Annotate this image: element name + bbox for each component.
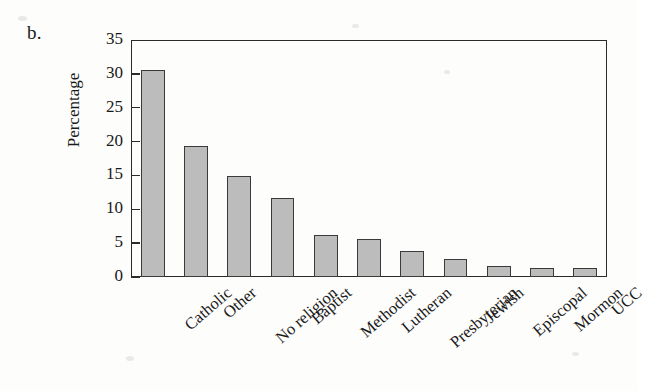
bar-slot bbox=[227, 40, 251, 277]
bar-slot bbox=[271, 40, 295, 277]
bar-slot bbox=[357, 40, 381, 277]
y-axis-tick-label: 5 bbox=[115, 232, 124, 252]
bar-series bbox=[131, 40, 607, 277]
bar bbox=[530, 268, 554, 277]
y-axis-title: Percentage bbox=[64, 30, 84, 190]
panel-letter-label: b. bbox=[27, 22, 42, 44]
bar-slot bbox=[530, 40, 554, 277]
bar bbox=[573, 268, 597, 277]
y-axis-tick-label: 25 bbox=[106, 97, 123, 117]
y-axis-tick-label: 10 bbox=[106, 198, 123, 218]
y-axis-tick-label: 0 bbox=[115, 266, 124, 286]
bar-slot bbox=[400, 40, 424, 277]
y-axis-tick-label: 30 bbox=[106, 63, 123, 83]
bar bbox=[400, 251, 424, 277]
bar-slot bbox=[487, 40, 511, 277]
y-axis-tick-label: 20 bbox=[106, 131, 123, 151]
y-axis-tick-label: 35 bbox=[106, 29, 123, 49]
x-axis-tick-labels: CatholicOtherNo religionBaptistMethodist… bbox=[131, 277, 607, 391]
bar-slot bbox=[444, 40, 468, 277]
bar-slot bbox=[184, 40, 208, 277]
bar bbox=[141, 70, 165, 277]
bar bbox=[487, 266, 511, 278]
bar-slot bbox=[573, 40, 597, 277]
bar bbox=[271, 198, 295, 277]
bar-slot bbox=[141, 40, 165, 277]
y-axis-tick-label: 15 bbox=[106, 164, 123, 184]
bar bbox=[444, 259, 468, 277]
bar-slot bbox=[314, 40, 338, 277]
bar bbox=[227, 176, 251, 277]
bar bbox=[314, 235, 338, 277]
bar bbox=[357, 239, 381, 277]
bar bbox=[184, 146, 208, 277]
